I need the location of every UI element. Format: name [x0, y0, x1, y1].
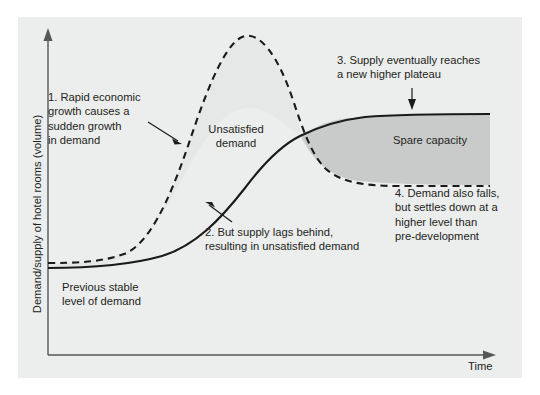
x-axis	[48, 351, 496, 360]
region-label-unsatisfied-demand: Unsatisfied demand	[193, 122, 279, 151]
figure-root: 1. Rapid economic growth causes a sudden…	[0, 0, 540, 395]
annotation-4-demand-also-falls: 4. Demand also falls, but settles down a…	[395, 186, 515, 244]
annotation-2-supply-lags-behind: 2. But supply lags behind, resulting in …	[205, 225, 375, 254]
label-previous-stable-level: Previous stable level of demand	[62, 280, 202, 309]
x-axis-label: Time	[468, 360, 492, 372]
y-axis-label: Demand/supply of hotel rooms (volume)	[31, 114, 43, 314]
annotation-1-rapid-economic-growth: 1. Rapid economic growth causes a sudden…	[48, 90, 168, 148]
region-label-spare-capacity: Spare capacity	[375, 134, 485, 146]
annotation-3-supply-new-plateau: 3. Supply eventually reaches a new highe…	[337, 53, 497, 82]
y-axis	[44, 28, 53, 355]
annotation-arrow-3	[408, 88, 416, 110]
